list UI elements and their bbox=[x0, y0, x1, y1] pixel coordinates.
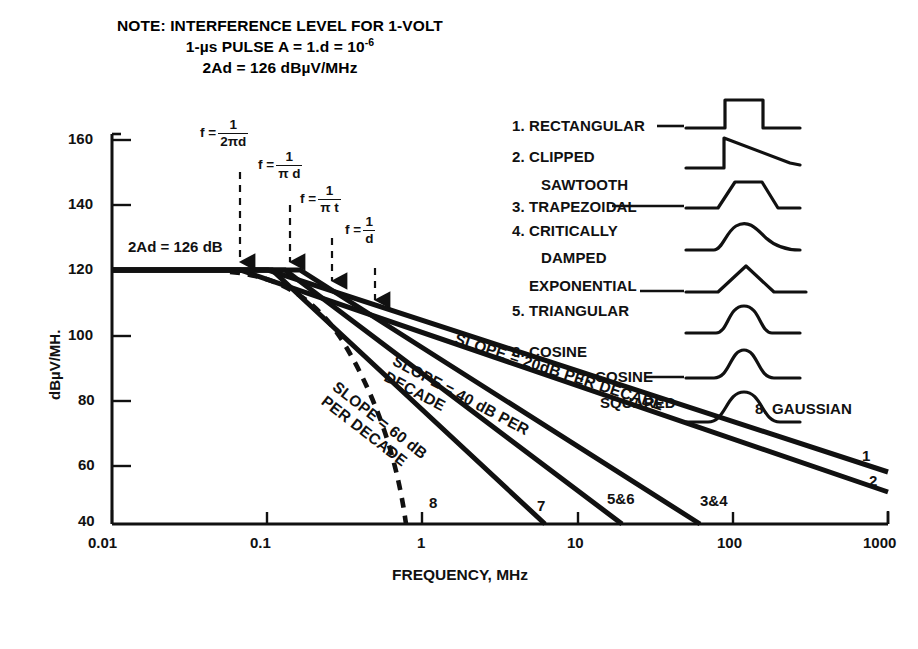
waveform-triangular bbox=[686, 266, 806, 292]
x-ticks bbox=[112, 510, 888, 524]
legend-item-7-cosine-squared: 7. COSINE bbox=[578, 368, 653, 385]
breakpoint-label-2pid: f = 1 2πd bbox=[200, 118, 248, 148]
axis-frame bbox=[112, 134, 888, 524]
legend-label-2a: CLIPPED bbox=[529, 148, 595, 165]
legend-item-4-critically-damped: 4. CRITICALLY bbox=[512, 222, 618, 239]
y-tick-40: 40 bbox=[78, 512, 95, 529]
curve-2-clipped-sawtooth bbox=[113, 270, 888, 492]
curve-tag-1: 1 bbox=[862, 447, 870, 464]
y-tick-80: 80 bbox=[78, 391, 95, 408]
breakpoint-num-2pid: 1 bbox=[218, 118, 248, 132]
breakpoint-lead-pid: f = bbox=[258, 158, 274, 172]
breakpoint-label-pid: f = 1 π d bbox=[258, 150, 302, 180]
legend-item-4-line3: EXPONENTIAL bbox=[529, 277, 637, 294]
waveform-critically-damped-exponential bbox=[686, 224, 800, 250]
legend-label-7a: COSINE bbox=[595, 368, 653, 385]
legend-item-7-line2: SQUARED bbox=[600, 394, 676, 411]
curve-tag-8: 8 bbox=[429, 494, 437, 511]
legend-item-2-line2: SAWTOOTH bbox=[541, 176, 628, 193]
breakpoint-num-pid: 1 bbox=[276, 150, 302, 164]
legend-label-3: TRAPEZOIDAL bbox=[529, 198, 637, 215]
legend-item-3-trapezoidal: 3. TRAPEZOIDAL bbox=[512, 198, 637, 215]
breakpoint-num-pit: 1 bbox=[318, 184, 341, 198]
curve-tag-56: 5&6 bbox=[607, 490, 635, 507]
x-tick-1: 1 bbox=[417, 534, 425, 551]
breakpoint-lead-d: f = bbox=[345, 223, 361, 237]
waveform-rectangular bbox=[686, 100, 800, 128]
legend-label-7b: SQUARED bbox=[600, 394, 676, 411]
legend-waveforms bbox=[686, 100, 806, 422]
breakpoint-den-2pid: 2πd bbox=[218, 135, 248, 149]
curve-tag-34: 3&4 bbox=[700, 492, 728, 509]
y-tick-140: 140 bbox=[68, 195, 93, 212]
x-axis-label: FREQUENCY, MHz bbox=[392, 566, 528, 584]
legend-number-5: 5. bbox=[512, 302, 525, 319]
breakpoint-den-pit: π t bbox=[318, 201, 341, 215]
breakpoint-lead-2pid: f = bbox=[200, 126, 216, 140]
curve-tag-7: 7 bbox=[537, 497, 545, 514]
legend-number-6: 6. bbox=[512, 343, 525, 360]
legend-item-4-line2: DAMPED bbox=[541, 249, 607, 266]
x-tick-10: 10 bbox=[567, 534, 584, 551]
plateau-label: 2Ad = 126 dB bbox=[128, 238, 223, 255]
x-tick-0-01: 0.01 bbox=[88, 534, 117, 551]
legend-item-8-gaussian: 8. GAUSSIAN bbox=[755, 400, 852, 417]
chart-canvas bbox=[0, 0, 918, 649]
breakpoint-lead-pit: f = bbox=[300, 192, 316, 206]
legend-label-4a: CRITICALLY bbox=[529, 222, 618, 239]
y-axis-label: dBµV/MH. bbox=[46, 330, 63, 400]
legend-item-6-cosine: 6. COSINE bbox=[512, 343, 587, 360]
curve-tag-2: 2 bbox=[869, 472, 877, 489]
y-tick-60: 60 bbox=[78, 456, 95, 473]
legend-number-2: 2. bbox=[512, 148, 525, 165]
y-ticks bbox=[112, 140, 131, 466]
waveform-cosine bbox=[686, 306, 800, 333]
waveform-trapezoidal bbox=[686, 182, 800, 208]
breakpoint-den-d: d bbox=[363, 232, 375, 246]
x-tick-0-1: 0.1 bbox=[250, 534, 271, 551]
legend-number-4: 4. bbox=[512, 222, 525, 239]
legend-label-4c: EXPONENTIAL bbox=[529, 277, 637, 294]
breakpoint-label-pit: f = 1 π t bbox=[300, 184, 341, 214]
x-tick-100: 100 bbox=[717, 534, 742, 551]
legend-label-1: RECTANGULAR bbox=[529, 117, 645, 134]
legend-label-6: COSINE bbox=[529, 343, 587, 360]
legend-label-8: GAUSSIAN bbox=[772, 400, 852, 417]
breakpoint-label-d: f = 1 d bbox=[345, 215, 375, 245]
legend-item-5-triangular: 5. TRIANGULAR bbox=[512, 302, 629, 319]
breakpoint-num-d: 1 bbox=[363, 215, 375, 229]
legend-leaders bbox=[612, 126, 684, 377]
y-tick-100: 100 bbox=[68, 326, 93, 343]
legend-label-2b: SAWTOOTH bbox=[541, 176, 628, 193]
waveform-cosine-squared bbox=[686, 350, 800, 378]
legend-item-2-clipped-sawtooth: 2. CLIPPED bbox=[512, 148, 595, 165]
legend-label-5: TRIANGULAR bbox=[529, 302, 629, 319]
legend-number-8: 8. bbox=[755, 400, 768, 417]
curve-8-gaussian bbox=[230, 272, 406, 524]
x-tick-1000: 1000 bbox=[863, 534, 896, 551]
legend-item-1-rectangular: 1. RECTANGULAR bbox=[512, 117, 645, 134]
breakpoint-den-pid: π d bbox=[276, 167, 302, 181]
legend-number-3: 3. bbox=[512, 198, 525, 215]
spectral-curves bbox=[113, 270, 888, 524]
legend-number-7: 7. bbox=[578, 368, 591, 385]
waveform-clipped-sawtooth bbox=[686, 138, 800, 168]
legend-label-4b: DAMPED bbox=[541, 249, 607, 266]
y-tick-160: 160 bbox=[68, 130, 93, 147]
y-tick-120: 120 bbox=[68, 260, 93, 277]
legend-number-1: 1. bbox=[512, 117, 525, 134]
